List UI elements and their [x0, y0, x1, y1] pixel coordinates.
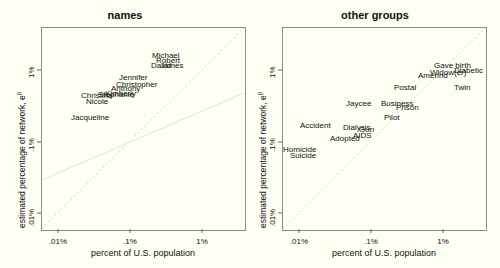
point-label: James [160, 62, 184, 70]
x-axis-label: percent of U.S. population [259, 248, 500, 258]
x-tick: 1% [196, 237, 208, 246]
y-tick: .01% [27, 209, 36, 227]
point-label: Twin [454, 84, 470, 92]
y-tick: 1% [27, 66, 36, 78]
fit-line [42, 93, 244, 180]
x-tick: .1% [364, 237, 378, 246]
point-label: Pilot [384, 114, 400, 122]
x-tick: 1% [437, 237, 449, 246]
point-label: Jaycee [346, 100, 371, 108]
y-tick: 1% [268, 66, 277, 78]
point-label: Postal [394, 84, 416, 92]
point-label: Amerind [418, 72, 448, 80]
point-label: Suicide [290, 152, 316, 160]
point-label: Prison [396, 104, 419, 112]
point-label: Accident [300, 122, 331, 130]
y-tick: .1% [268, 138, 277, 152]
y-tick: .1% [27, 138, 36, 152]
panel-names: names .01% .1% 1% .01% .1% 1% percent of… [0, 0, 250, 268]
panel-other-groups: other groups .01% .1% 1% .01% .1% 1% per… [250, 0, 500, 268]
point-label: Nicole [86, 98, 108, 106]
point-label: Adopted [330, 135, 360, 143]
plot-lines [0, 0, 250, 268]
y-axis-label: estimated percentage of network, eβ [16, 92, 27, 228]
x-tick: .01% [49, 237, 67, 246]
x-tick: .01% [290, 237, 308, 246]
x-axis-label: percent of U.S. population [18, 248, 268, 258]
point-label: Jacqueline [71, 114, 109, 122]
y-axis-label: estimated percentage of network, eβ [257, 92, 268, 228]
y-tick: .01% [268, 209, 277, 227]
x-tick: .1% [123, 237, 137, 246]
plot-lines [250, 0, 500, 268]
identity-line [42, 28, 244, 228]
